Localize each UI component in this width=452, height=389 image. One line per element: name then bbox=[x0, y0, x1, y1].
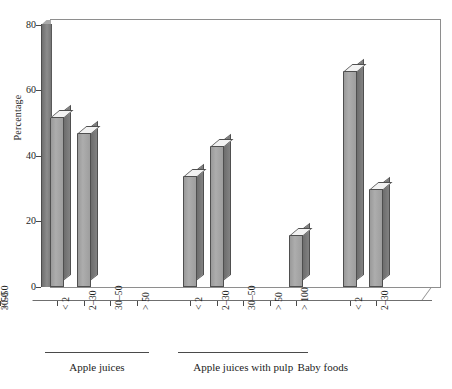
y-tick-label: 40 bbox=[10, 151, 36, 161]
x-tick-mark bbox=[57, 301, 58, 306]
bar-front-face bbox=[343, 71, 357, 287]
bar-column bbox=[369, 189, 383, 287]
x-tick-mark bbox=[243, 301, 244, 306]
bar-side-face bbox=[196, 163, 204, 281]
bar-side-face bbox=[63, 104, 71, 281]
x-category-label: 30–50 bbox=[247, 285, 257, 310]
x-category-label: > 50 bbox=[274, 292, 284, 310]
group-rule bbox=[178, 352, 308, 353]
y-tick-label: 80 bbox=[10, 20, 36, 30]
bar-column bbox=[210, 146, 224, 287]
bar-front-face bbox=[183, 176, 197, 287]
x-tick-mark bbox=[110, 301, 111, 306]
x-category-label: 2–30 bbox=[221, 290, 231, 310]
bar-column bbox=[183, 176, 197, 287]
plot-back-right-edge bbox=[440, 19, 441, 287]
bar-front-face bbox=[50, 117, 64, 287]
bar-side-face bbox=[356, 59, 364, 281]
plot-back-top-edge bbox=[50, 19, 440, 20]
bar-column bbox=[343, 71, 357, 287]
plot-floor-left-edge bbox=[33, 287, 51, 301]
x-category-label: 2–30 bbox=[88, 290, 98, 310]
x-tick-mark bbox=[350, 301, 351, 306]
x-category-label: > 50 bbox=[0, 292, 10, 310]
bar-front-face bbox=[369, 189, 383, 287]
bar-front-face bbox=[77, 133, 91, 287]
x-category-label: > 100 bbox=[300, 287, 310, 310]
x-tick-mark bbox=[270, 301, 271, 306]
bar-side-face bbox=[90, 121, 98, 281]
group-caption: Baby foods bbox=[298, 361, 348, 373]
x-category-label: 30–50 bbox=[114, 285, 124, 310]
x-category-label: 2–30 bbox=[380, 290, 390, 310]
x-tick-mark bbox=[84, 301, 85, 306]
x-category-label: < 2 bbox=[194, 297, 204, 310]
bar-front-face bbox=[289, 235, 303, 287]
x-category-label: > 50 bbox=[141, 292, 151, 310]
x-tick-mark bbox=[296, 301, 297, 306]
x-tick-mark bbox=[376, 301, 377, 306]
y-tick-label: 60 bbox=[10, 85, 36, 95]
bar-side-face bbox=[382, 176, 390, 281]
x-tick-mark bbox=[217, 301, 218, 306]
group-rule bbox=[45, 352, 149, 353]
y-tick-label: 20 bbox=[10, 216, 36, 226]
bar-chart: Percentage 80 60 40 20 0 < 22–3030–50> 5… bbox=[0, 0, 452, 389]
x-category-label: < 2 bbox=[61, 297, 71, 310]
plot-baseline bbox=[50, 287, 441, 288]
bar-column bbox=[50, 117, 64, 287]
bar-column bbox=[289, 235, 303, 287]
bar-column bbox=[77, 133, 91, 287]
x-tick-mark bbox=[137, 301, 138, 306]
plot-floor-right-edge bbox=[431, 287, 441, 301]
x-category-label: < 2 bbox=[354, 297, 364, 310]
x-tick-mark bbox=[190, 301, 191, 306]
bar-side-face bbox=[223, 134, 231, 281]
bar-front-face bbox=[210, 146, 224, 287]
